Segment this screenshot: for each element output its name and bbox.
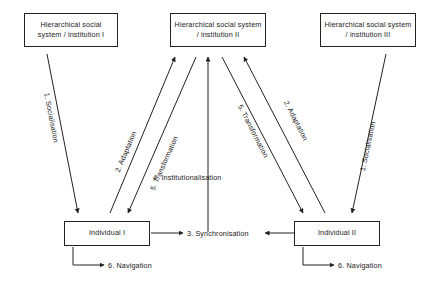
node-individual-2[interactable]: Individual II: [294, 221, 380, 246]
label-navigation-right: 6. Navigation: [338, 261, 382, 270]
label-synchronisation: 3. Synchronisation: [187, 229, 249, 238]
diagram-canvas: Hierarchical social system / institution…: [0, 0, 436, 281]
edge-navigation-right: [303, 247, 334, 265]
label-navigation-left: 6. Navigation: [108, 261, 152, 270]
label-institutionalisation: 4. Institutionalisation: [153, 173, 221, 182]
node-institution-2-label: Hierarchical social system / institution…: [171, 20, 265, 41]
node-institution-1[interactable]: Hierarchical social system / institution…: [24, 13, 118, 47]
edge-navigation-left: [73, 247, 104, 265]
edge-transformation-right: [222, 57, 303, 213]
node-individual-1[interactable]: Individual I: [64, 221, 150, 246]
edge-adaptation-left: [110, 57, 175, 213]
edge-transformation-left: [128, 57, 196, 213]
node-institution-3-label: Hierarchical social system / institution…: [321, 20, 415, 41]
node-institution-1-label: Hierarchical social system / institution…: [25, 20, 117, 41]
node-institution-3[interactable]: Hierarchical social system / institution…: [320, 13, 416, 47]
node-individual-2-label: Individual II: [315, 228, 359, 238]
node-institution-2[interactable]: Hierarchical social system / institution…: [170, 13, 266, 47]
node-individual-1-label: Individual I: [86, 228, 128, 238]
